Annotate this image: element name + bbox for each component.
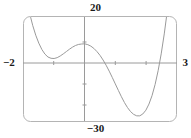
y-min-label: −30 — [0, 123, 191, 134]
x-max-label: 3 — [183, 57, 189, 68]
plot-frame — [24, 17, 177, 122]
plot-canvas — [0, 0, 191, 138]
x-min-label: −2 — [3, 57, 15, 68]
graph-figure: 20 −30 −2 3 — [0, 0, 191, 138]
function-curve — [24, 0, 177, 116]
y-max-label: 20 — [0, 2, 191, 13]
